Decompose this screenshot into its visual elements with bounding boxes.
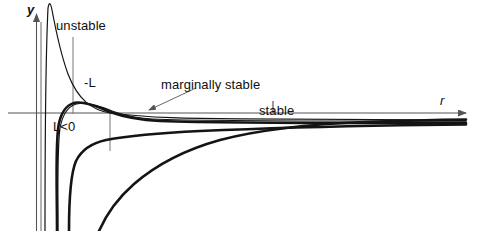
L-less-than-zero-label: L<0 (53, 120, 75, 133)
curve-stable-lower (99, 120, 466, 231)
curve-unstable (45, 4, 466, 231)
stable-label: stable (259, 104, 294, 117)
minus-L-label: -L (84, 76, 96, 89)
unstable-label: unstable (56, 19, 106, 32)
curve-stable-upper (69, 124, 466, 231)
plot-canvas (0, 0, 484, 231)
r-axis-label: r (440, 94, 444, 107)
stability-diagram-figure: y r unstable -L L<0 marginally stable st… (0, 0, 484, 231)
marginally-stable-label: marginally stable (161, 78, 260, 91)
curves-group (45, 4, 466, 231)
y-axis-label: y (27, 3, 34, 16)
